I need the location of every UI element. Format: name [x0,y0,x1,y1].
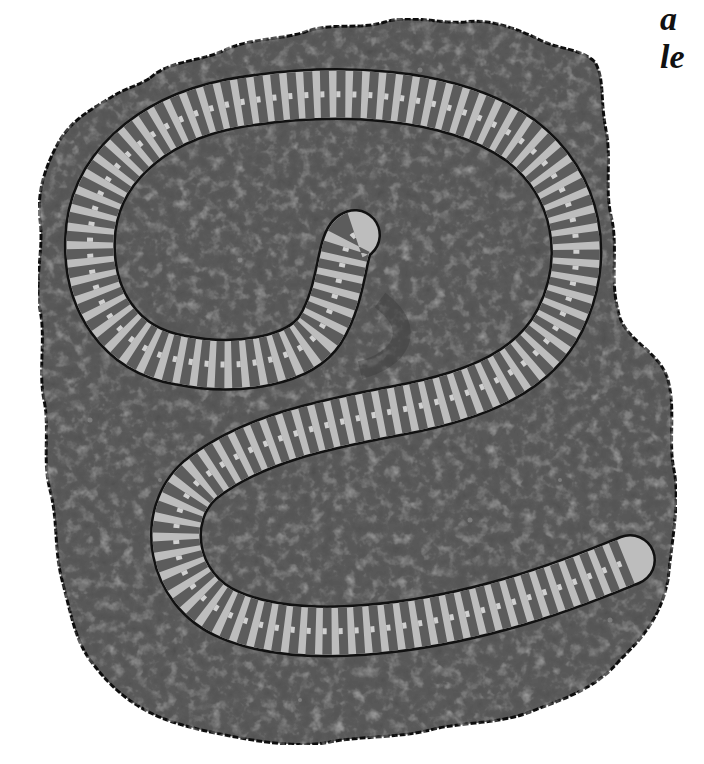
caption-line-2: le [660,38,685,75]
caption-text: a le [660,0,685,76]
earthworm-illustration [0,0,704,764]
caption-line-1: a [660,0,677,37]
